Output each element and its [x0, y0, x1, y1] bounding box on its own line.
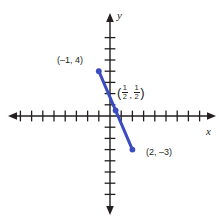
point-marker-a — [96, 68, 102, 74]
coordinate-plane-figure: y x (–1, 4) (2, –3) ( 1 2 , 1 2 ) — [0, 0, 224, 223]
x-axis-left-arrow — [8, 112, 17, 120]
fraction-y-numerator: 1 — [134, 84, 140, 92]
point-label-negative-one-four: (–1, 4) — [57, 56, 83, 66]
fraction-y-denominator: 2 — [134, 92, 140, 101]
label-close-paren: ) — [140, 86, 144, 99]
fraction-x-denominator: 2 — [122, 92, 128, 101]
fraction-x-numerator: 1 — [122, 84, 128, 92]
label-comma: , — [130, 85, 133, 100]
point-label-half-half: ( 1 2 , 1 2 ) — [117, 84, 145, 101]
y-axis-top-arrow — [106, 13, 114, 22]
label-open-paren: ( — [117, 86, 121, 99]
y-axis-label: y — [117, 10, 122, 21]
y-axis — [105, 13, 116, 215]
x-axis-right-arrow — [207, 112, 216, 120]
coordinate-plane-graphic — [0, 0, 224, 223]
point-label-two-negative-three: (2, –3) — [146, 148, 172, 158]
y-axis-bottom-arrow — [106, 206, 114, 215]
point-marker-b — [113, 108, 119, 114]
x-axis — [8, 111, 216, 122]
point-marker-c — [130, 147, 136, 153]
x-axis-label: x — [206, 126, 211, 137]
fraction-y-one-half: 1 2 — [134, 84, 140, 101]
fraction-x-one-half: 1 2 — [122, 84, 128, 101]
